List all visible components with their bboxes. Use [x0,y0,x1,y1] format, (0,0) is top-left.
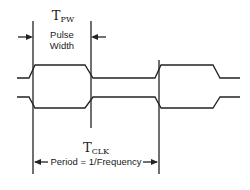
tpw-subscript: PW [61,15,75,24]
arrow-right-icon [26,34,33,40]
width-label: Width [42,40,82,51]
tclk-label: TCLK [76,140,116,156]
tpw-symbol: T [52,8,61,23]
period-label: Period = 1/Frequency [48,156,144,167]
tpw-label: TPW [46,8,80,24]
arrow-left-icon [91,34,98,40]
arrow-right-icon [151,159,158,165]
lower-waveform [17,97,240,108]
pulse-label: Pulse [42,29,82,40]
arrow-left-icon [34,159,41,165]
pulse-width-label: Pulse Width [42,29,82,51]
upper-waveform [17,65,240,78]
tclk-symbol: T [83,140,92,155]
tclk-subscript: CLK [92,147,109,156]
